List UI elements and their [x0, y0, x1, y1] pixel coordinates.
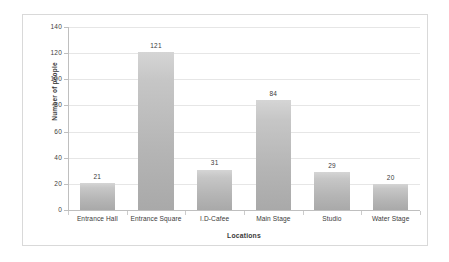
- bar-group-water-stage: 20: [361, 27, 420, 210]
- bar-studio[interactable]: [314, 172, 349, 210]
- bar-water-stage[interactable]: [373, 184, 408, 210]
- y-axis-line: [68, 27, 69, 211]
- bar-value-studio: 29: [303, 162, 362, 170]
- x-category-label-entrance-hall: Entrance Hall: [68, 214, 127, 223]
- x-axis-title: Locations: [68, 232, 420, 239]
- bar-value-id-cafee: 31: [185, 159, 244, 167]
- y-tick-label-40: 40: [38, 154, 62, 162]
- bar-group-entrance-square: 121: [127, 27, 186, 210]
- bar-main-stage[interactable]: [256, 100, 291, 210]
- y-tick-label-140: 140: [38, 23, 62, 31]
- bar-value-water-stage: 20: [361, 174, 420, 182]
- x-category-label-id-cafee: I.D-Cafee: [185, 214, 244, 223]
- bar-value-main-stage: 84: [244, 90, 303, 98]
- bar-group-main-stage: 84: [244, 27, 303, 210]
- chart-figure: Number of people 140 120 100 80 60 40 20…: [0, 0, 449, 262]
- bar-group-id-cafee: 31: [185, 27, 244, 210]
- bar-entrance-hall[interactable]: [80, 183, 115, 210]
- bar-id-cafee[interactable]: [197, 170, 232, 211]
- bar-group-studio: 29: [303, 27, 362, 210]
- x-category-label-water-stage: Water Stage: [361, 214, 420, 223]
- bar-value-entrance-square: 121: [127, 42, 186, 50]
- y-tick-label-60: 60: [38, 128, 62, 136]
- x-category-label-main-stage: Main Stage: [244, 214, 303, 223]
- y-tick-label-120: 120: [38, 49, 62, 57]
- x-category-label-studio: Studio: [303, 214, 362, 223]
- y-tick-label-20: 20: [38, 180, 62, 188]
- bar-value-entrance-hall: 21: [68, 173, 127, 181]
- x-tick-mark: [420, 211, 421, 215]
- y-tick-label-80: 80: [38, 101, 62, 109]
- y-tick-label-100: 100: [38, 75, 62, 83]
- x-category-label-entrance-square: Entrance Square: [127, 214, 186, 223]
- plot-area: 21 121 31 84 29 20: [68, 27, 420, 210]
- bar-entrance-square[interactable]: [138, 52, 173, 210]
- bar-group-entrance-hall: 21: [68, 27, 127, 210]
- y-tick-label-0: 0: [38, 206, 62, 214]
